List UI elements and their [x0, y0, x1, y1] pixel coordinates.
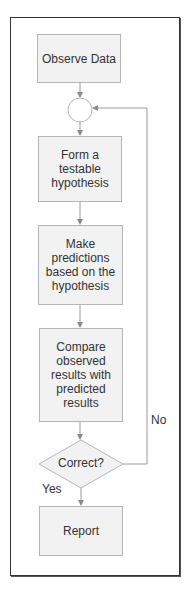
merge-circle — [68, 98, 92, 122]
compare-node: Compare observed results with predicted … — [39, 328, 123, 422]
observe-data-node: Observe Data — [37, 34, 121, 83]
yes-edge-label: Yes — [42, 482, 62, 496]
decision-label: Correct? — [39, 456, 123, 470]
no-edge-label: No — [151, 413, 166, 427]
hypothesis-node: Form a testable hypothesis — [38, 136, 122, 202]
predictions-node: Make predictions based on the hypothesis — [38, 225, 123, 305]
report-node: Report — [39, 506, 123, 556]
